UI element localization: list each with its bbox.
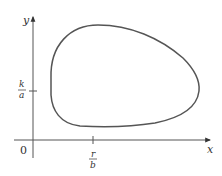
diagram-canvas: y x 0 k a r b	[0, 0, 222, 176]
x-tick-numerator: r	[91, 149, 96, 159]
origin-label: 0	[20, 144, 27, 157]
phase-plane-figure: y x 0 k a r b	[0, 0, 222, 176]
x-tick-denominator: b	[90, 160, 96, 170]
y-axis-label: y	[22, 14, 30, 27]
closed-orbit-curve	[51, 25, 199, 127]
y-tick-denominator: a	[19, 90, 24, 100]
x-axis-label: x	[207, 143, 214, 156]
y-tick-numerator: k	[19, 79, 24, 89]
